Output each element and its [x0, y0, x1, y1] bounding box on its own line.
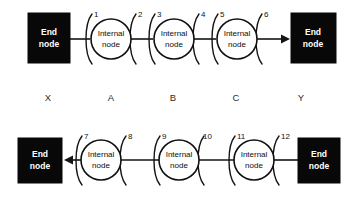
port-number: 2 — [138, 10, 143, 19]
port-number: 10 — [203, 132, 212, 141]
port-number: 8 — [128, 132, 133, 141]
port-number: 4 — [201, 10, 206, 19]
port-number: 12 — [281, 132, 290, 141]
end-node-label-line1: End — [311, 149, 327, 159]
internal-node-label-line1: Internal — [88, 150, 115, 159]
end-node-box — [291, 13, 336, 63]
bottom-row: End node End node Internal node Internal… — [18, 132, 340, 185]
internal-node-circle — [91, 19, 131, 59]
system-label-y: Y — [298, 92, 305, 103]
internal-node-circle — [159, 140, 199, 180]
port-number: 11 — [237, 132, 246, 141]
internal-node-circle — [81, 140, 121, 180]
internal-node-circle — [234, 140, 274, 180]
system-labels-row: X A B C Y — [45, 92, 305, 103]
system-label-c: C — [233, 92, 240, 103]
end-node-label-line2: node — [309, 161, 330, 171]
internal-node-label-line1: Internal — [166, 150, 193, 159]
internal-node-circle — [154, 19, 194, 59]
end-node-left: End node — [28, 13, 70, 63]
internal-node-c: Internal node — [234, 140, 274, 180]
end-node-right: End node — [298, 138, 340, 183]
internal-node-c: Internal node — [217, 19, 257, 59]
top-row: End node End node Internal node Internal… — [28, 10, 336, 64]
internal-node-b: Internal node — [154, 19, 194, 59]
internal-node-label-line2: node — [245, 161, 263, 170]
internal-node-label-line1: Internal — [98, 29, 125, 38]
arrow-head-right-icon — [281, 35, 290, 44]
system-label-a: A — [108, 92, 115, 103]
end-node-label-line2: node — [30, 161, 51, 171]
end-node-label-line1: End — [305, 27, 321, 37]
internal-node-b: Internal node — [159, 140, 199, 180]
internal-node-label-line1: Internal — [161, 29, 188, 38]
port-number: 3 — [157, 10, 162, 19]
internal-node-label-line2: node — [102, 40, 120, 49]
internal-node-label-line2: node — [228, 40, 246, 49]
internal-node-label-line1: Internal — [224, 29, 251, 38]
end-node-label-line1: End — [41, 27, 57, 37]
end-node-label-line2: node — [303, 39, 324, 49]
port-number: 6 — [264, 10, 269, 19]
internal-node-label-line1: Internal — [241, 150, 268, 159]
end-node-right: End node — [291, 13, 336, 63]
internal-node-label-line2: node — [170, 161, 188, 170]
arrow-head-left-icon — [64, 156, 73, 165]
port-number: 5 — [220, 10, 225, 19]
internal-node-label-line2: node — [165, 40, 183, 49]
end-node-label-line1: End — [32, 149, 48, 159]
internal-node-a: Internal node — [91, 19, 131, 59]
end-node-label-line2: node — [39, 39, 60, 49]
system-label-x: X — [45, 92, 52, 103]
port-number: 7 — [84, 132, 89, 141]
port-number: 9 — [162, 132, 167, 141]
diagram-canvas: End node End node Internal node Internal… — [0, 0, 356, 197]
network-diagram: End node End node Internal node Internal… — [0, 0, 356, 197]
system-label-b: B — [170, 92, 176, 103]
end-node-box — [28, 13, 70, 63]
internal-node-a: Internal node — [81, 140, 121, 180]
end-node-left: End node — [18, 138, 62, 183]
internal-node-label-line2: node — [92, 161, 110, 170]
port-number: 1 — [94, 10, 99, 19]
internal-node-circle — [217, 19, 257, 59]
